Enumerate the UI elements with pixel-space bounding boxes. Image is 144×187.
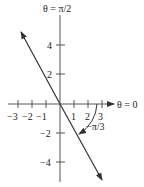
y-tick-label: 4: [47, 40, 52, 51]
y-tick-label: −2: [40, 128, 51, 139]
x-tick-label: −2: [22, 111, 33, 122]
horizontal-axis-label: θ = 0: [117, 99, 137, 110]
polar-line-lower: [60, 104, 102, 180]
y-tick-label: −4: [40, 157, 51, 168]
y-tick-label: 2: [47, 69, 52, 80]
x-tick-label: −3: [7, 111, 18, 122]
x-tick-label: −1: [36, 111, 47, 122]
angle-label: −π/3: [86, 121, 104, 132]
polar-line-diagram: θ = π/2 θ = 0 −3 −2 −1 1 2 3 4 2 −2 −4 −…: [0, 0, 144, 187]
vertical-axis-label: θ = π/2: [43, 3, 71, 14]
polar-line: [21, 32, 60, 104]
x-tick-label: 1: [71, 111, 76, 122]
